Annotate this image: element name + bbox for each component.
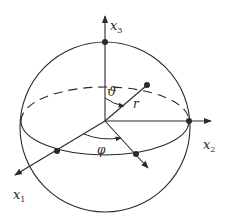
point-projection-equator	[133, 151, 139, 157]
x2-label: x2	[203, 137, 215, 154]
point-top	[102, 39, 108, 45]
radius-label: r	[133, 97, 140, 111]
spherical-coordinates-diagram: x3 x2 x1 r ϑ φ	[0, 0, 225, 222]
projection-vector	[105, 121, 148, 168]
x1-label: x1	[13, 187, 25, 204]
theta-label: ϑ	[107, 84, 116, 99]
point-x1-equator	[54, 148, 60, 154]
x3-label: x3	[110, 18, 122, 35]
point-r-end	[144, 82, 150, 88]
theta-arc	[105, 98, 124, 106]
x1-axis	[15, 121, 105, 175]
point-x2-equator	[186, 118, 192, 124]
phi-label: φ	[97, 143, 106, 157]
phi-arc	[84, 134, 121, 139]
